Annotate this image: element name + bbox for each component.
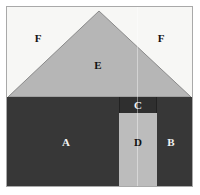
roof-triangle xyxy=(7,7,192,97)
region-label-f-left: F xyxy=(35,33,42,44)
diagram-frame: F F E C A D B xyxy=(6,6,193,187)
region-label-e: E xyxy=(94,60,101,71)
region-label-c: C xyxy=(134,100,142,111)
region-label-f-right: F xyxy=(158,33,165,44)
region-label-a: A xyxy=(62,137,70,148)
door-panel xyxy=(119,113,157,187)
wall-block xyxy=(7,97,192,187)
region-label-d: D xyxy=(134,137,142,148)
region-label-b: B xyxy=(167,137,174,148)
figure-root: F F E C A D B xyxy=(0,0,200,195)
